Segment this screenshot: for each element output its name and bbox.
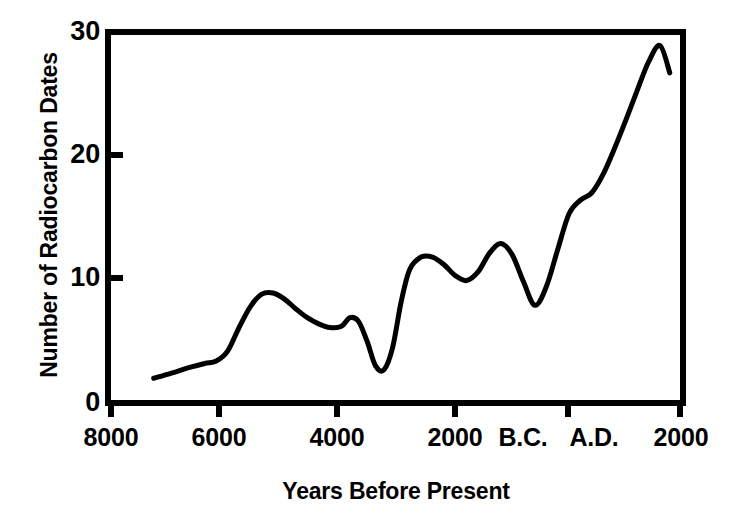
radiocarbon-dates-chart: 30 20 10 0 8000 6000 4000 2000 B.C. A.D.… [0,0,731,524]
y-axis-title: Number of Radiocarbon Dates [36,25,63,405]
x-tick-label-8000: 8000 [66,425,156,450]
series-path-radiocarbon [154,45,670,378]
axis-frame-rect [108,32,683,403]
plot-frame [108,32,683,403]
x-tick-label-bc: B.C. [485,425,561,450]
x-tick-label-6000: 6000 [174,425,264,450]
x-tick-label-ad: A.D. [556,425,632,450]
x-tick-label-4000: 4000 [292,425,382,450]
x-tick-label-2000-ad: 2000 [636,425,726,450]
data-series-line [154,45,670,378]
x-axis-title: Years Before Present [108,478,684,505]
